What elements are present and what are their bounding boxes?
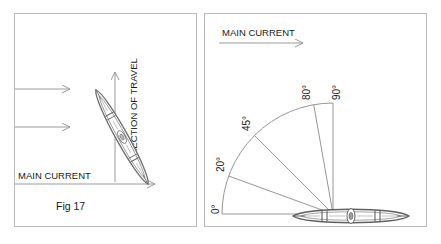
angle-label-80: 80° bbox=[301, 85, 312, 100]
figure-root: MAIN CURRENT DIRECTION OF TRAVEL bbox=[0, 0, 441, 244]
angle-label-90: 90° bbox=[331, 85, 342, 100]
figure-caption: Fig 17 bbox=[56, 200, 85, 212]
right-panel: MAIN CURRENT 0° 20° 45° 80° 90° bbox=[205, 14, 427, 227]
angle-label-45: 45° bbox=[241, 116, 252, 131]
angle-label-20: 20° bbox=[215, 157, 226, 172]
left-main-current-label: MAIN CURRENT bbox=[18, 170, 91, 181]
kayak-horizontal bbox=[293, 209, 409, 224]
right-panel-border bbox=[205, 14, 427, 227]
right-main-current-label: MAIN CURRENT bbox=[222, 27, 295, 38]
kayak2-paddler bbox=[349, 212, 353, 219]
left-panel-border bbox=[15, 14, 197, 227]
angle-label-0: 0° bbox=[210, 204, 221, 214]
diagram-canvas: MAIN CURRENT DIRECTION OF TRAVEL bbox=[0, 0, 441, 244]
left-panel: MAIN CURRENT DIRECTION OF TRAVEL bbox=[15, 14, 197, 227]
